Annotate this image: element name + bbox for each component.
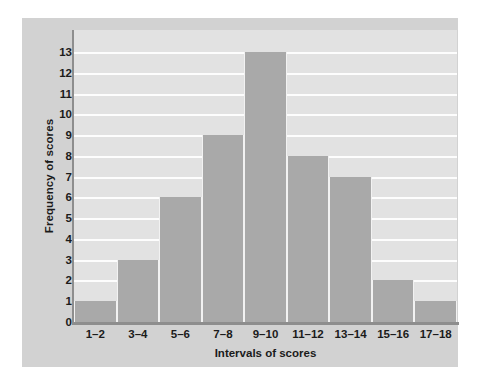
y-tick-label: 3 [36,254,72,266]
bar [202,135,245,322]
bar [414,301,457,322]
x-tick-label: 17–18 [420,328,452,340]
y-tick-label: 2 [36,274,72,286]
y-tick-label: 10 [36,108,72,120]
bar [159,197,202,322]
x-tick-label: 7–8 [213,328,232,340]
y-tick-label: 1 [36,295,72,307]
y-tick-label: 12 [36,67,72,79]
y-tick-label: 9 [36,129,72,141]
bar [244,52,287,322]
bar [329,177,372,322]
bar [117,260,160,322]
histogram-figure: Frequency of scores 012345678910111213 1… [0,0,480,384]
plot-area [74,30,457,322]
y-tick-label: 7 [36,171,72,183]
bar [74,301,117,322]
y-tick-label: 5 [36,212,72,224]
x-axis-tick-labels: 1–23–45–67–89–1011–1213–1415–1617–18 [74,328,457,348]
bars-group [74,52,457,322]
x-tick-label: 13–14 [335,328,367,340]
bar [372,280,415,322]
chart-panel: Frequency of scores 012345678910111213 1… [22,18,458,367]
y-tick-label: 4 [36,233,72,245]
y-tick-label: 13 [36,46,72,58]
x-tick-label: 9–10 [253,328,279,340]
x-axis-line [72,322,459,325]
bar [287,156,330,322]
y-tick-label: 6 [36,191,72,203]
y-tick-label: 11 [36,88,72,100]
x-tick-label: 5–6 [171,328,190,340]
y-tick-label: 0 [36,316,72,328]
x-tick-label: 1–2 [86,328,105,340]
x-tick-label: 15–16 [377,328,409,340]
y-axis-tick-labels: 012345678910111213 [36,18,72,367]
x-tick-label: 3–4 [128,328,147,340]
y-tick-label: 8 [36,150,72,162]
x-axis-title: Intervals of scores [74,347,457,359]
plot-inner [74,52,457,322]
x-tick-label: 11–12 [292,328,323,340]
